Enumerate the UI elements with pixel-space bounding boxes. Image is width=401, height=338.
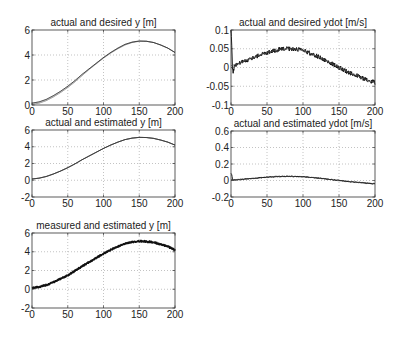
subplot-title: actual and desired y [m] — [50, 17, 156, 28]
x-tick-label: 100 — [295, 106, 312, 117]
figure: 0501001502000246actual and desired y [m]… — [0, 0, 401, 338]
y-tick-labels: -20246 — [21, 228, 30, 314]
y-tick-label: 0.1 — [215, 25, 229, 36]
y-tick-label: -2 — [21, 192, 30, 203]
x-tick-label: 0 — [228, 106, 234, 117]
x-tick-labels: 050100150200 — [228, 106, 384, 117]
y-tick-label: 0 — [24, 284, 30, 295]
y-tick-label: 4 — [24, 50, 30, 61]
x-tick-label: 100 — [95, 106, 112, 117]
x-tick-label: 100 — [295, 198, 312, 209]
subplots-container: 0501001502000246actual and desired y [m]… — [21, 17, 384, 320]
x-tick-label: 150 — [331, 106, 348, 117]
x-tick-label: 100 — [95, 309, 112, 320]
y-tick-labels: -0.200.20.40.6 — [212, 126, 230, 203]
x-tick-label: 50 — [62, 106, 74, 117]
x-tick-label: 200 — [167, 309, 184, 320]
subplot-title: actual and desired ydot [m/s] — [239, 17, 367, 28]
x-tick-label: 150 — [131, 309, 148, 320]
y-tick-label: -0.1 — [212, 100, 230, 111]
y-tick-label: 4 — [24, 246, 30, 257]
subplot-actual-estimated-ydot: 050100150200-0.200.20.40.6actual and est… — [212, 118, 384, 209]
subplot-actual-estimated-y: 050100150200-20246actual and estimated y… — [21, 117, 184, 209]
y-tick-label: 0 — [223, 62, 229, 73]
y-tick-label: 2 — [24, 158, 30, 169]
x-tick-label: 150 — [131, 198, 148, 209]
y-tick-label: -0.2 — [212, 192, 230, 203]
x-tick-label: 50 — [62, 309, 74, 320]
y-tick-label: 2 — [24, 75, 30, 86]
y-tick-labels: 0246 — [24, 25, 30, 111]
y-tick-labels: -0.1-0.0500.050.1 — [206, 25, 229, 111]
x-tick-label: 200 — [367, 198, 384, 209]
x-tick-label: 0 — [29, 106, 35, 117]
y-tick-label: 6 — [24, 125, 30, 136]
x-tick-labels: 050100150200 — [29, 106, 184, 117]
x-tick-label: 200 — [167, 198, 184, 209]
x-tick-labels: 050100150200 — [29, 309, 184, 320]
y-tick-label: 2 — [24, 265, 30, 276]
x-tick-labels: 050100150200 — [228, 198, 384, 209]
x-tick-label: 50 — [261, 198, 273, 209]
subplot-actual-desired-y: 0501001502000246actual and desired y [m] — [24, 17, 183, 117]
x-tick-label: 200 — [167, 106, 184, 117]
y-tick-label: 0.4 — [215, 142, 229, 153]
y-tick-label: 0 — [24, 100, 30, 111]
subplot-title: actual and estimated y [m] — [45, 117, 162, 128]
y-tick-label: 6 — [24, 228, 30, 239]
subplot-actual-desired-ydot: 050100150200-0.1-0.0500.050.1actual and … — [206, 17, 384, 117]
y-tick-label: 0 — [223, 175, 229, 186]
x-tick-label: 0 — [228, 198, 234, 209]
y-tick-label: 0.05 — [210, 43, 230, 54]
y-tick-label: 0.2 — [215, 159, 229, 170]
y-tick-label: 4 — [24, 141, 30, 152]
x-tick-label: 200 — [367, 106, 384, 117]
x-tick-label: 150 — [131, 106, 148, 117]
y-tick-label: 6 — [24, 25, 30, 36]
x-tick-label: 0 — [29, 198, 35, 209]
subplot-title: measured and estimated y [m] — [36, 220, 171, 231]
y-tick-label: 0 — [24, 175, 30, 186]
x-tick-labels: 050100150200 — [29, 198, 184, 209]
y-tick-label: -0.05 — [206, 81, 229, 92]
x-tick-label: 50 — [261, 106, 273, 117]
x-tick-label: 0 — [29, 309, 35, 320]
y-tick-label: 0.6 — [215, 126, 229, 137]
y-tick-label: -2 — [21, 303, 30, 314]
x-tick-label: 150 — [331, 198, 348, 209]
subplot-measured-estimated-y: 050100150200-20246measured and estimated… — [21, 220, 184, 320]
x-tick-label: 100 — [95, 198, 112, 209]
subplot-title: actual and estimated ydot [m/s] — [234, 118, 373, 129]
y-tick-labels: -20246 — [21, 125, 30, 203]
x-tick-label: 50 — [62, 198, 74, 209]
